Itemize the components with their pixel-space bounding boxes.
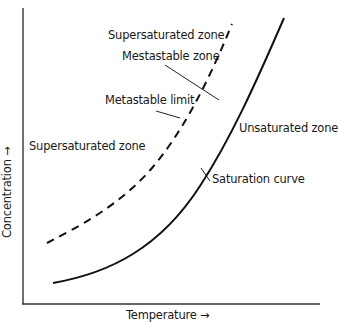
supersaturated-zone-upper-label: Supersaturated zone	[108, 30, 224, 42]
x-axis-label: Temperature →	[126, 310, 210, 322]
supersaturated-zone-left-label: Supersaturated zone	[29, 141, 145, 153]
metastable-limit-leader	[156, 111, 180, 118]
metastable-limit-label: Metastable limit	[105, 95, 194, 107]
y-axis-label: Concentration →	[1, 146, 13, 238]
saturation-curve-label: Saturation curve	[212, 174, 305, 186]
metastable-zone-label: Mestastable zone	[122, 51, 220, 63]
unsaturated-zone-label: Unsaturated zone	[239, 123, 338, 135]
